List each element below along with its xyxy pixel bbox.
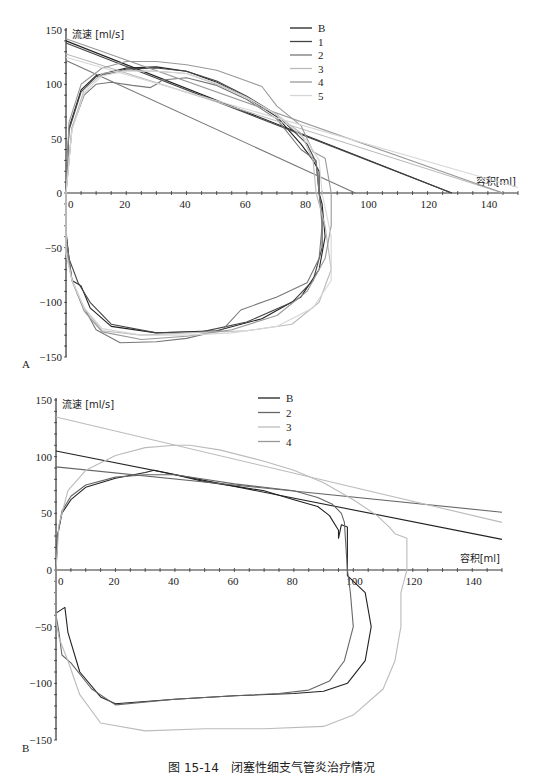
x-tick-label: 40 — [180, 198, 192, 210]
legend-label: B — [318, 22, 325, 34]
x-tick-label: 20 — [108, 575, 120, 587]
legend: B12345 — [290, 22, 325, 102]
y-tick-label: −50 — [35, 621, 53, 633]
x-tick-label: 140 — [465, 575, 482, 587]
panel-label: A — [22, 358, 30, 370]
y-tick-label: −100 — [39, 296, 62, 308]
flow-volume-loop-3 — [66, 70, 331, 335]
tangent-line-3 — [56, 417, 502, 522]
x-tick-label: 0 — [58, 575, 64, 587]
legend-label: 2 — [286, 407, 292, 419]
plot-area — [66, 39, 518, 343]
x-tick-label: 140 — [481, 198, 498, 210]
x-tick-label: 80 — [287, 575, 299, 587]
y-axis-title: 流速 [ml/s] — [62, 398, 114, 410]
x-tick-label: 40 — [168, 575, 180, 587]
y-tick-label: 0 — [57, 187, 63, 199]
plot-area — [56, 417, 502, 731]
y-tick-label: 150 — [36, 394, 53, 406]
legend-label: 5 — [318, 90, 324, 102]
flow-volume-loop-5 — [66, 71, 331, 335]
x-tick-label: 80 — [300, 198, 312, 210]
x-tick-label: 60 — [240, 198, 252, 210]
x-tick-label: 0 — [68, 198, 74, 210]
y-tick-label: 150 — [46, 24, 63, 36]
legend-label: 3 — [318, 63, 324, 75]
figure-caption: 图 15-14 闭塞性细支气管炎治疗情况 — [0, 758, 543, 775]
chart-panel-b: 020406080100120140150100500−50−100−150流速… — [22, 392, 502, 754]
legend-label: 1 — [318, 36, 324, 48]
y-tick-label: −50 — [45, 242, 63, 254]
y-axis-title: 流速 [ml/s] — [72, 28, 124, 40]
x-tick-label: 20 — [119, 198, 130, 210]
legend-label: B — [286, 392, 293, 404]
legend-label: 4 — [318, 76, 324, 88]
panel-label: B — [22, 742, 29, 754]
tangent-line-1 — [66, 43, 452, 193]
x-tick-label: 120 — [406, 575, 423, 587]
y-tick-label: 0 — [47, 564, 53, 576]
x-tick-label: 100 — [360, 198, 377, 210]
y-tick-label: 50 — [51, 133, 63, 145]
y-tick-label: 100 — [46, 78, 63, 90]
chart-panel-a: 020406080100120140150100500−50−100−150流速… — [22, 22, 518, 370]
legend-label: 4 — [286, 436, 292, 448]
flow-volume-loop-4 — [66, 62, 331, 340]
y-tick-label: 100 — [36, 451, 53, 463]
legend-label: 3 — [286, 421, 292, 433]
tangent-line-5 — [66, 57, 518, 187]
x-axis-title: 容积[ml] — [460, 552, 500, 564]
flow-volume-loop-3 — [56, 445, 407, 731]
y-tick-label: −100 — [29, 677, 52, 689]
y-tick-label: −150 — [29, 734, 52, 746]
flow-volume-loop-b — [56, 470, 371, 703]
x-tick-label: 120 — [421, 198, 438, 210]
flow-volume-loop-2 — [66, 78, 322, 343]
tangent-line-3 — [66, 54, 503, 193]
flow-volume-figure: 020406080100120140150100500−50−100−150流速… — [0, 0, 543, 782]
legend: B234 — [258, 392, 293, 448]
x-tick-label: 60 — [227, 575, 239, 587]
flow-volume-loop-2 — [56, 475, 353, 705]
y-tick-label: 50 — [41, 507, 53, 519]
legend-label: 2 — [318, 49, 324, 61]
y-tick-label: −150 — [39, 351, 62, 363]
